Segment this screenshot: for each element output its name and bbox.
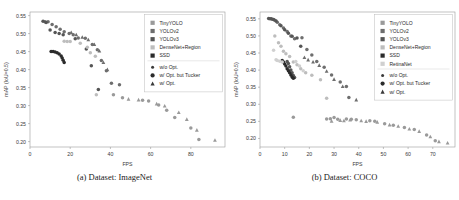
- data-point-triangle: [417, 129, 421, 133]
- data-point-circle: [425, 133, 429, 137]
- data-point-circle: [392, 123, 396, 127]
- legend-background: [145, 15, 223, 92]
- figure-container: 0204060800.200.250.300.350.400.450.500.5…: [0, 0, 459, 200]
- caption-a: (a) Dataset: ImageNet: [0, 172, 229, 182]
- panel-b: 0102030405060700.200.250.300.350.400.450…: [230, 0, 459, 200]
- y-tick-label: 0.40: [16, 67, 26, 73]
- data-point-triangle: [163, 104, 167, 108]
- x-tick-label: 50: [381, 151, 387, 157]
- data-point-circle: [76, 36, 80, 40]
- x-tick-label: 10: [282, 151, 288, 157]
- legend-opt-label: w/ Opt. but Tucker: [160, 72, 201, 78]
- y-tick-label: 0.55: [246, 16, 256, 22]
- legend-opt-label: w/ Opt.: [390, 89, 406, 95]
- y-tick-label: 0.20: [246, 135, 256, 141]
- data-point-circle: [319, 78, 323, 82]
- x-tick-label: 0: [259, 151, 262, 157]
- data-point-triangle: [317, 63, 321, 67]
- y-axis-label: mAP (IoU=0.5): [233, 62, 239, 97]
- data-point-triangle: [388, 123, 392, 127]
- data-point-circle: [347, 96, 351, 100]
- data-point-circle: [368, 119, 372, 123]
- data-point-triangle: [407, 127, 411, 131]
- legend-marker-square: [381, 21, 385, 25]
- y-axis-label: mAP (IoU=0.5): [3, 62, 9, 97]
- data-point-circle: [197, 138, 201, 142]
- legend-marker-square: [381, 54, 385, 58]
- y-tick-label: 0.50: [16, 31, 26, 37]
- data-point-circle: [310, 53, 314, 57]
- data-point-circle: [89, 51, 93, 55]
- data-point-circle: [121, 96, 125, 100]
- data-point-circle: [86, 46, 90, 50]
- data-point-circle: [62, 61, 66, 65]
- data-point-circle: [100, 59, 104, 63]
- legend-model-label: YOLOv2: [390, 28, 409, 34]
- data-point-triangle: [359, 119, 363, 123]
- panel-a: 0204060800.200.250.300.350.400.450.500.5…: [0, 0, 229, 200]
- data-point-circle: [322, 66, 326, 70]
- data-point-triangle: [428, 135, 432, 139]
- legend-marker-small-circle: [151, 66, 154, 69]
- data-point-triangle: [325, 69, 329, 73]
- data-point-circle: [403, 126, 407, 129]
- data-point-triangle: [127, 97, 131, 101]
- data-point-circle: [48, 28, 52, 32]
- data-point-circle: [165, 109, 169, 113]
- data-point-triangle: [446, 141, 450, 145]
- legend: TinyYOLOYOLOv2YOLOv3DenseNet+RegionSSDw/…: [145, 15, 223, 92]
- data-point-circle: [383, 122, 387, 126]
- data-point-circle: [355, 118, 359, 122]
- y-tick-label: 0.45: [246, 50, 256, 56]
- data-point-circle: [90, 64, 94, 68]
- y-tick-label: 0.30: [246, 101, 256, 107]
- y-tick-label: 0.35: [246, 84, 256, 90]
- data-point-circle: [300, 36, 304, 40]
- data-point-circle: [141, 98, 145, 102]
- legend-marker-square: [151, 21, 155, 25]
- legend-model-label: RetinaNet: [390, 61, 413, 67]
- legend-background: [375, 15, 453, 101]
- legend-model-label: SSD: [160, 52, 171, 58]
- legend-marker-square: [151, 29, 155, 33]
- legend-opt-label: w/ Opt. but Tucker: [390, 80, 431, 86]
- data-point-circle: [65, 40, 69, 44]
- data-point-triangle: [364, 119, 368, 123]
- data-point-circle: [68, 40, 72, 44]
- data-point-circle: [279, 24, 283, 28]
- data-point-circle: [345, 117, 349, 121]
- data-point-circle: [147, 99, 151, 103]
- x-axis-label: FPS: [352, 161, 363, 167]
- legend-model-label: YOLOv2: [160, 28, 179, 34]
- legend-marker-small-circle: [381, 74, 384, 77]
- data-point-circle: [110, 82, 114, 86]
- legend-opt-label: w/ Opt.: [160, 80, 176, 86]
- y-tick-label: 0.50: [246, 33, 256, 39]
- x-tick-label: 0: [29, 151, 32, 157]
- data-point-circle: [330, 73, 334, 77]
- x-tick-label: 40: [356, 151, 362, 157]
- data-point-circle: [325, 117, 329, 121]
- data-point-circle: [434, 139, 438, 143]
- data-point-circle: [298, 64, 302, 68]
- data-point-circle: [292, 116, 296, 120]
- data-point-circle: [41, 20, 45, 24]
- data-point-circle: [277, 41, 281, 45]
- data-point-triangle: [80, 35, 84, 39]
- x-tick-label: 80: [188, 151, 194, 157]
- data-point-triangle: [195, 128, 199, 132]
- legend-model-label: YOLOv3: [160, 36, 179, 42]
- legend-marker-square: [381, 29, 385, 33]
- legend-marker-square: [381, 37, 385, 41]
- data-point-triangle: [185, 117, 189, 121]
- data-point-circle: [305, 48, 309, 52]
- data-point-circle: [345, 85, 349, 89]
- legend-model-label: SSD: [390, 52, 401, 58]
- data-point-circle: [413, 128, 417, 132]
- data-point-triangle: [311, 60, 315, 64]
- y-tick-label: 0.55: [16, 13, 26, 19]
- data-point-circle: [54, 25, 58, 29]
- y-tick-label: 0.25: [246, 118, 256, 124]
- data-point-circle: [301, 69, 305, 73]
- data-point-circle: [336, 118, 340, 122]
